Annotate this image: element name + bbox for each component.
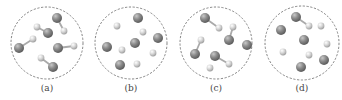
small-atom <box>119 47 126 54</box>
large-atom <box>153 33 163 43</box>
small-atom <box>280 49 287 56</box>
panel-label: (c) <box>210 83 222 93</box>
large-atom <box>115 60 125 70</box>
large-atom <box>133 13 143 23</box>
small-atom <box>306 23 313 30</box>
small-atom <box>207 65 214 72</box>
small-atom <box>150 50 157 57</box>
large-atom <box>190 49 200 59</box>
panel-label: (a) <box>41 83 53 93</box>
large-atom <box>276 25 286 35</box>
large-atom <box>14 43 24 53</box>
panel-label: (b) <box>125 83 138 93</box>
panel-a: (a) <box>11 7 83 93</box>
small-atom <box>34 24 41 31</box>
large-atom <box>299 35 309 45</box>
panel-c: (c) <box>180 7 252 93</box>
large-atom <box>319 55 329 65</box>
molecule-diagram: (a)(b)(c)(d) <box>0 0 342 100</box>
small-atom <box>140 29 147 36</box>
small-atom <box>318 23 325 30</box>
small-atom <box>216 25 223 32</box>
large-atom <box>210 51 220 61</box>
large-atom <box>48 62 58 72</box>
large-atom <box>43 28 53 38</box>
small-atom <box>230 24 237 31</box>
large-atom <box>291 12 301 22</box>
large-atom <box>200 13 210 23</box>
container-boundary <box>11 7 83 79</box>
small-atom <box>324 41 331 48</box>
large-atom <box>296 62 306 72</box>
small-atom <box>226 61 233 68</box>
container-boundary <box>180 7 252 79</box>
panel-d: (d) <box>265 6 339 93</box>
large-atom <box>52 13 62 23</box>
large-atom <box>130 38 140 48</box>
large-atom <box>224 35 234 45</box>
large-atom <box>53 43 63 53</box>
small-atom <box>114 23 121 30</box>
large-atom <box>242 40 252 50</box>
small-atom <box>61 28 68 35</box>
small-atom <box>306 52 313 59</box>
large-atom <box>102 42 112 52</box>
small-atom <box>71 43 78 50</box>
panel-label: (d) <box>296 83 309 93</box>
small-atom <box>134 61 141 68</box>
small-atom <box>30 36 37 43</box>
panel-b: (b) <box>95 7 167 93</box>
small-atom <box>198 37 205 44</box>
small-atom <box>38 55 45 62</box>
